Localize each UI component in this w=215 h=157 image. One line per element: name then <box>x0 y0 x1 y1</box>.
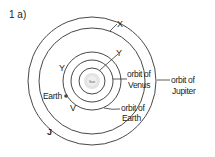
orbit-earth-label-2: Earth <box>122 113 141 123</box>
orbit-jupiter-label-2: Jupiter <box>172 86 196 96</box>
marker-x: X <box>117 19 123 29</box>
orbit-jupiter-label-1: orbit of <box>171 75 196 85</box>
orbit-earth-label-1: orbit of <box>121 103 146 113</box>
earth-pointer-line <box>104 108 120 109</box>
x-pointer-line <box>110 24 117 31</box>
marker-v: V <box>70 103 76 113</box>
marker-j: J <box>47 127 52 137</box>
orbit-diagram: 1 a) Sun X Y Y V J Earth orbit of Venus … <box>0 0 215 157</box>
marker-y-left: Y <box>59 63 65 73</box>
question-label: 1 a) <box>9 9 26 20</box>
sun-label: Sun <box>89 80 95 84</box>
marker-y-top: Y <box>116 48 122 58</box>
earth-dot <box>64 94 68 98</box>
earth-label: Earth <box>43 91 62 101</box>
orbit-venus-label-2: Venus <box>128 80 150 90</box>
orbit-venus-label-1: orbit of <box>127 69 152 79</box>
